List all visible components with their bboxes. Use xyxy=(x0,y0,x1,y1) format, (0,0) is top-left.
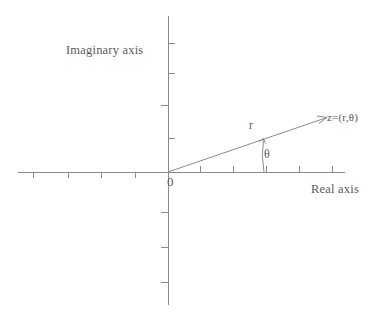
origin-label: 0 xyxy=(167,175,174,188)
diagram-canvas xyxy=(0,0,386,313)
radius-label: r xyxy=(249,120,253,132)
real-axis-label: Real axis xyxy=(311,183,359,196)
radius-vector-line xyxy=(168,118,327,173)
axes-group xyxy=(18,16,345,305)
radius-vector-group xyxy=(168,116,327,172)
angle-label: θ xyxy=(264,148,270,160)
imaginary-axis-label: Imaginary axis xyxy=(66,44,143,57)
polar-complex-plane-figure: Imaginary axis Real axis 0 r θ z=(r,θ) xyxy=(0,0,386,313)
point-label: z=(r,θ) xyxy=(327,112,358,123)
vector-arrowhead-icon xyxy=(317,116,327,124)
